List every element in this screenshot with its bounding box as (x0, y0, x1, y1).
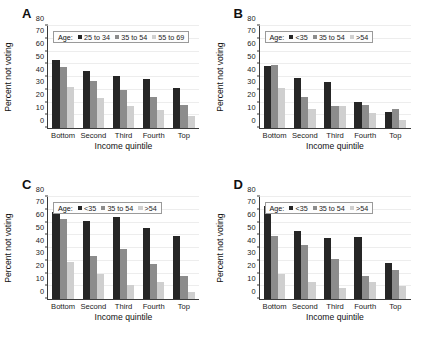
legend-label: 35 to 54 (319, 205, 345, 212)
legend-swatch-icon (115, 35, 119, 39)
y-tick-label: 0 (251, 286, 259, 295)
y-tick-label: 50 (36, 222, 48, 231)
x-tick-label: Third (320, 302, 350, 311)
legend: Age:<3535 to 54>54 (53, 202, 162, 214)
bar (308, 109, 315, 128)
y-tick-label: 60 (247, 39, 259, 48)
bar (52, 212, 59, 299)
x-tick-label: Third (108, 131, 138, 140)
legend-label: 55 to 69 (158, 34, 184, 41)
y-tick-label: 50 (36, 51, 48, 60)
bar (369, 113, 376, 128)
x-axis-ticks: BottomSecondThirdFourthTop (260, 128, 411, 140)
y-tick-label: 70 (36, 26, 48, 35)
y-tick-label: 40 (247, 235, 259, 244)
x-tick-label: Fourth (139, 302, 169, 311)
y-tick-label: 0 (251, 115, 259, 124)
x-tick-label: Fourth (139, 131, 169, 140)
x-tick-label: Top (380, 302, 410, 311)
bar (60, 219, 67, 299)
y-tick-label: 50 (247, 222, 259, 231)
bar (143, 228, 150, 299)
chart-panel-b: BPercent not voting01020304050607080Bott… (212, 0, 423, 171)
legend-item: 25 to 34 (78, 34, 110, 41)
bar (362, 105, 369, 128)
bar (120, 249, 127, 299)
bar (278, 88, 285, 128)
legend-item: >54 (350, 34, 368, 41)
bar (150, 97, 157, 128)
legend-item: >54 (138, 205, 156, 212)
y-tick-label: 70 (36, 197, 48, 206)
y-tick-label: 20 (36, 261, 48, 270)
x-tick-label: Bottom (48, 131, 78, 140)
bar (83, 221, 90, 299)
y-tick-label: 30 (36, 77, 48, 86)
bar (67, 262, 74, 299)
legend-title: Age: (270, 34, 285, 41)
bar (52, 60, 59, 128)
y-tick-label: 60 (247, 210, 259, 219)
x-axis-label: Income quintile (48, 312, 199, 322)
panel-letter: B (234, 6, 243, 21)
bar (97, 274, 104, 300)
x-axis-ticks: BottomSecondThirdFourthTop (48, 299, 199, 311)
y-tick-label: 20 (247, 261, 259, 270)
legend-item: 35 to 54 (313, 205, 345, 212)
y-tick-label: 40 (247, 64, 259, 73)
x-tick-label: Bottom (260, 131, 290, 140)
bar (354, 102, 361, 128)
bar (173, 236, 180, 299)
legend-item: 35 to 54 (115, 34, 147, 41)
bar (180, 105, 187, 128)
legend-label: <35 (295, 34, 307, 41)
bar (271, 65, 278, 128)
bar (264, 66, 271, 128)
x-tick-label: Fourth (350, 131, 380, 140)
legend-swatch-icon (350, 206, 354, 210)
legend-item: 35 to 54 (313, 34, 345, 41)
legend-title: Age: (58, 34, 73, 41)
bar (294, 78, 301, 128)
bar-group (169, 197, 199, 299)
bar (157, 282, 164, 299)
chart-panel-d: DPercent not voting01020304050607080Bott… (212, 171, 423, 342)
legend-item: <35 (289, 205, 307, 212)
y-tick-label: 80 (36, 184, 48, 193)
legend-label: >54 (356, 34, 368, 41)
legend-swatch-icon (289, 206, 293, 210)
bar (324, 238, 331, 299)
legend-item: <35 (78, 205, 96, 212)
bar (113, 217, 120, 299)
x-tick-label: Third (320, 131, 350, 140)
bar (127, 285, 134, 299)
legend-title: Age: (270, 205, 285, 212)
y-tick-label: 70 (247, 197, 259, 206)
bar (331, 259, 338, 299)
y-tick-label: 10 (36, 273, 48, 282)
legend-label: 35 to 54 (319, 34, 345, 41)
bar (354, 237, 361, 299)
y-tick-label: 60 (36, 210, 48, 219)
bar (308, 282, 315, 299)
x-tick-label: Top (169, 302, 199, 311)
legend-item: >54 (350, 205, 368, 212)
x-tick-label: Second (78, 302, 108, 311)
legend-swatch-icon (152, 35, 156, 39)
bar (392, 270, 399, 299)
bar (294, 231, 301, 299)
y-axis-label: Percent not voting (3, 213, 13, 282)
legend-swatch-icon (138, 206, 142, 210)
bar (188, 292, 195, 299)
bar (188, 116, 195, 128)
x-tick-label: Top (169, 131, 199, 140)
bar (339, 288, 346, 299)
bar (143, 79, 150, 128)
x-tick-label: Third (108, 302, 138, 311)
legend-label: >54 (356, 205, 368, 212)
bar (399, 120, 406, 128)
bar (67, 87, 74, 128)
y-tick-label: 10 (247, 102, 259, 111)
bar (113, 76, 120, 128)
x-axis-label: Income quintile (260, 312, 411, 322)
